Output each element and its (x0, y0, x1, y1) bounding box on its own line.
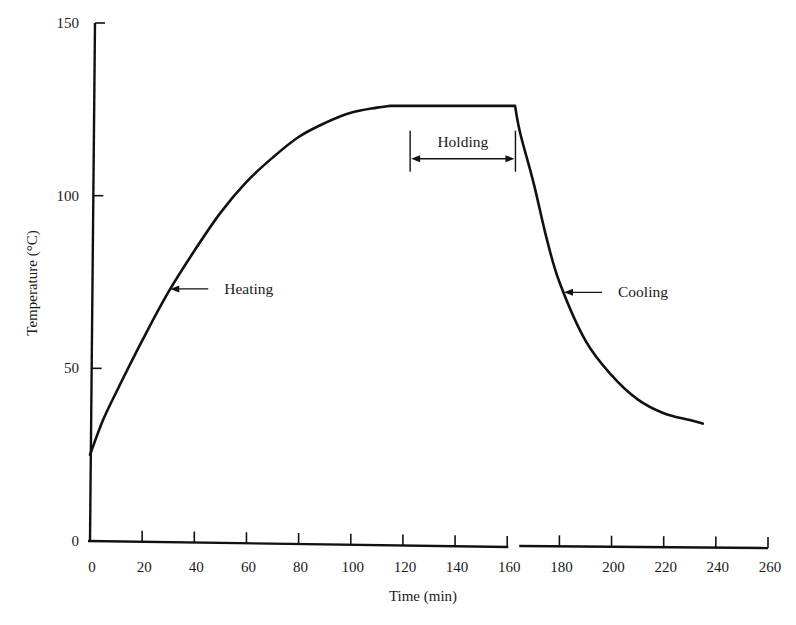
x-tick-label: 140 (446, 559, 469, 575)
x-tick-label: 20 (137, 559, 152, 575)
x-tick-label: 180 (550, 559, 573, 575)
y-tick-label: 150 (57, 15, 80, 31)
y-tick-label: 0 (72, 533, 80, 549)
temperature-curve (90, 106, 703, 455)
x-axis-title: Time (min) (389, 588, 457, 605)
x-tick-label: 160 (498, 559, 521, 575)
arrowhead-icon (505, 155, 514, 162)
heating-label: Heating (224, 280, 273, 297)
x-tick-label: 40 (189, 559, 204, 575)
x-tick-label: 260 (759, 559, 782, 575)
x-tick-label: 80 (293, 559, 308, 575)
x-tick-label: 200 (602, 559, 625, 575)
x-tick-label: 240 (707, 559, 730, 575)
y-tick-label: 100 (57, 188, 80, 204)
arrowhead-icon (411, 155, 420, 162)
annotations: HeatingHoldingCooling (170, 131, 668, 301)
x-tick-label: 0 (88, 559, 96, 575)
y-tick-label: 50 (64, 360, 79, 376)
x-axis-line-right (519, 546, 768, 548)
cooling-label: Cooling (618, 283, 668, 300)
x-tick-label: 100 (342, 559, 365, 575)
x-tick-label: 220 (654, 559, 677, 575)
y-axis-title: Temperature (°C) (24, 230, 41, 335)
y-axis-line (90, 23, 95, 541)
temperature-time-chart: 0501001500204060801001201401601802002202… (0, 0, 796, 625)
holding-label: Holding (437, 133, 488, 150)
x-tick-label: 60 (241, 559, 256, 575)
x-tick-label: 120 (394, 559, 417, 575)
